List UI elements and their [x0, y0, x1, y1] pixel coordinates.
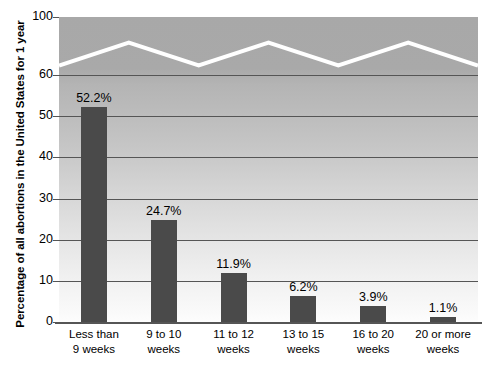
y-axis-tick-label: 100 — [20, 10, 53, 23]
y-axis-tick-label: 0 — [20, 315, 53, 328]
y-axis-tick-label: 40 — [20, 150, 53, 163]
x-axis-tick-label-line: weeks — [401, 342, 485, 357]
gridline — [59, 240, 478, 241]
y-axis-tick-label: 10 — [20, 274, 53, 287]
bar-value-label: 24.7% — [124, 204, 204, 218]
y-axis-tick-group: 0102030405060100 — [20, 0, 53, 370]
y-axis-tick-mark — [53, 199, 59, 200]
x-axis-line — [55, 322, 482, 324]
y-axis-tick-mark — [53, 116, 59, 117]
bar — [360, 306, 386, 322]
bar — [151, 220, 177, 322]
y-axis-tick-mark — [53, 322, 59, 323]
bar-chart: Percentage of all abortions in the Unite… — [0, 0, 492, 370]
bar-value-label: 6.2% — [263, 280, 343, 294]
y-axis-tick-label: 50 — [20, 109, 53, 122]
x-axis-tick-label: 20 or moreweeks — [401, 327, 485, 357]
gridline — [59, 157, 478, 158]
y-axis-tick-mark — [53, 17, 59, 18]
x-axis-tick-group: Less than9 weeks9 to 10weeks11 to 12week… — [59, 327, 478, 367]
bar-value-label: 1.1% — [403, 301, 483, 315]
y-axis-tick-mark — [53, 157, 59, 158]
y-axis-tick-mark — [53, 75, 59, 76]
plot-area — [59, 17, 478, 322]
y-axis-tick-mark — [53, 281, 59, 282]
y-axis-tick-label: 60 — [20, 68, 53, 81]
bar-value-label: 11.9% — [194, 257, 274, 271]
y-axis-tick-label: 30 — [20, 192, 53, 205]
bar-value-label: 3.9% — [333, 290, 413, 304]
gridline — [59, 75, 478, 76]
bar — [290, 296, 316, 322]
x-axis-tick-label-line: 20 or more — [401, 327, 485, 342]
y-axis-tick-mark — [53, 240, 59, 241]
axis-break-zigzag-icon — [59, 17, 478, 322]
gridline — [59, 199, 478, 200]
bar-value-label: 52.2% — [54, 91, 134, 105]
bar — [221, 273, 247, 322]
y-axis-tick-label: 20 — [20, 233, 53, 246]
bar — [81, 107, 107, 322]
gridline — [59, 116, 478, 117]
